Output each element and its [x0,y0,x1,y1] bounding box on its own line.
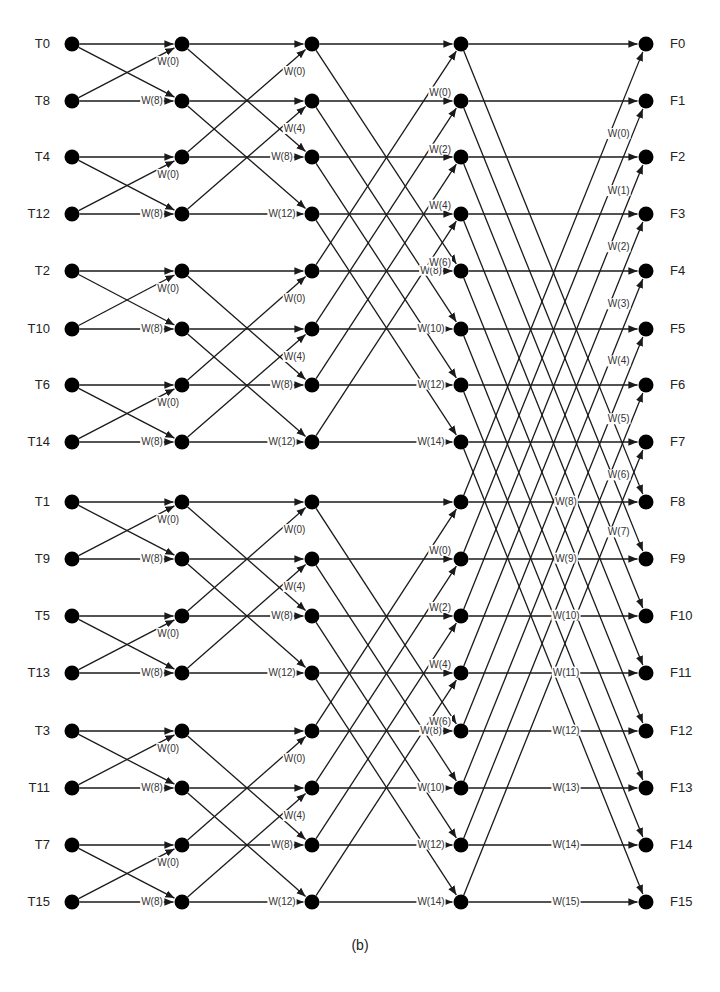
input-label: T13 [28,665,50,680]
input-label: T3 [35,723,50,738]
butterfly-node [639,322,654,337]
butterfly-node [639,895,654,910]
output-label: F12 [670,723,692,738]
input-label: T5 [35,608,50,623]
input-label: T11 [29,780,50,795]
butterfly-node [175,552,190,567]
twiddle-labels: W(8)W(0)W(8)W(0)W(8)W(0)W(8)W(0)W(8)W(0)… [140,56,630,907]
butterfly-node [305,322,320,337]
butterfly-node [175,838,190,853]
output-label: F9 [670,551,685,566]
butterfly-node [175,666,190,681]
twiddle-label-straight: W(14) [552,839,579,850]
butterfly-node [305,264,320,279]
twiddle-label-cross: W(6) [608,469,630,480]
twiddle-label-straight: W(14) [417,896,444,907]
butterfly-node [65,666,80,681]
butterfly-node [639,495,654,510]
butterfly-node [639,207,654,222]
butterfly-node [65,435,80,450]
butterfly-node [175,724,190,739]
input-label: T7 [35,837,50,852]
twiddle-label-straight: W(12) [268,436,295,447]
twiddle-label-cross: W(0) [284,293,306,304]
output-label: F4 [670,263,685,278]
butterfly-node [175,264,190,279]
butterfly-node [175,781,190,796]
twiddle-label-cross: W(0) [157,397,179,408]
butterfly-node [175,435,190,450]
twiddle-label-straight: W(10) [417,782,444,793]
twiddle-label-straight: W(12) [268,208,295,219]
butterfly-node [65,150,80,165]
twiddle-label-cross: W(4) [284,810,306,821]
butterfly-node [305,781,320,796]
butterfly-node [454,781,469,796]
input-label: T0 [35,36,50,51]
butterfly-node [65,264,80,279]
twiddle-label-cross: W(6) [429,257,451,268]
twiddle-label-cross: W(6) [429,716,451,727]
twiddle-label-straight: W(8) [141,323,163,334]
butterfly-node [175,322,190,337]
twiddle-label-cross: W(2) [429,144,451,155]
twiddle-label-cross: W(0) [284,66,306,77]
output-label: F8 [670,494,685,509]
io-labels: T0T8T4T12T2T10T6T14T1T9T5T13T3T11T7T15F0… [28,36,693,909]
twiddle-label-cross: W(4) [284,581,306,592]
twiddle-label-cross: W(0) [608,128,630,139]
twiddle-label-straight: W(8) [141,95,163,106]
twiddle-label-straight: W(8) [271,839,293,850]
twiddle-label-cross: W(4) [429,659,451,670]
butterfly-node [175,150,190,165]
twiddle-label-cross: W(0) [157,283,179,294]
butterfly-node [65,207,80,222]
twiddle-label-cross: W(7) [608,526,630,537]
twiddle-label-cross: W(0) [157,56,179,67]
output-label: F14 [670,837,692,852]
twiddle-label-straight: W(8) [141,553,163,564]
butterfly-node [454,150,469,165]
butterfly-node [305,895,320,910]
input-label: T15 [28,894,50,909]
butterfly-node [65,495,80,510]
butterfly-node [175,895,190,910]
butterfly-node [305,37,320,52]
output-label: F10 [670,608,692,623]
butterfly-node [305,150,320,165]
butterfly-node [65,378,80,393]
twiddle-label-cross: W(0) [157,857,179,868]
twiddle-label-straight: W(12) [268,667,295,678]
twiddle-label-straight: W(10) [552,610,579,621]
butterfly-node [639,781,654,796]
butterfly-node [175,37,190,52]
butterfly-node [454,895,469,910]
twiddle-label-straight: W(9) [555,553,577,564]
butterfly-node [639,94,654,109]
butterfly-node [65,94,80,109]
butterfly-node [175,495,190,510]
twiddle-label-cross: W(0) [429,87,451,98]
butterfly-node [305,435,320,450]
twiddle-label-cross: W(0) [157,743,179,754]
output-label: F3 [670,206,685,221]
twiddle-label-straight: W(8) [141,208,163,219]
twiddle-label-straight: W(12) [417,379,444,390]
butterfly-node [454,264,469,279]
butterfly-node [65,838,80,853]
output-label: F5 [670,321,685,336]
butterfly-node [454,838,469,853]
twiddle-label-straight: W(8) [141,667,163,678]
butterfly-node [454,378,469,393]
butterfly-node [175,207,190,222]
twiddle-label-straight: W(12) [417,839,444,850]
butterfly-node [175,609,190,624]
butterfly-node [305,838,320,853]
butterfly-node [639,609,654,624]
twiddle-label-cross: W(5) [608,413,630,424]
butterfly-node [65,895,80,910]
input-label: T9 [35,551,50,566]
input-label: T1 [35,494,50,509]
butterfly-node [454,435,469,450]
input-label: T14 [28,434,50,449]
